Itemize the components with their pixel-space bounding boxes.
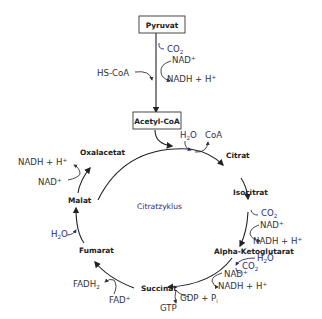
entry-co2-label: CO2 xyxy=(167,44,183,55)
gdp-label: GDP + Pi xyxy=(180,293,218,304)
acetylcoa-label: Acetyl-CoA xyxy=(134,117,180,126)
fad-label: FAD+ xyxy=(109,295,131,305)
metabolite-oxalacetat: Oxalacetat xyxy=(80,148,125,157)
entry-co2-release-arrow xyxy=(159,43,164,49)
metabolite-citrat: Citrat xyxy=(226,151,250,160)
acetylcoa-box: Acetyl-CoA xyxy=(133,112,181,129)
metabolite-succinat: Succinat xyxy=(141,284,177,293)
pyruvat-label: Pyruvat xyxy=(146,21,179,30)
acetylcoa-to-cycle-arrow xyxy=(155,130,172,146)
iso-nadh-label: NADH + H+ xyxy=(253,236,303,246)
citric-acid-cycle-diagram: Pyruvat CO2 NAD+ NADH + H+ HS-CoA Acetyl… xyxy=(0,0,322,319)
cycle-isocitrat-to-akg xyxy=(240,212,248,246)
entry-nadh-label: NADH + H+ xyxy=(167,74,217,84)
fum-h2o-label: H2O xyxy=(51,229,68,240)
metabolite-isocitrat: Isocitrat xyxy=(233,188,268,197)
metabolite-malat: Malat xyxy=(68,196,92,205)
entry-nad-label: NAD+ xyxy=(172,55,196,65)
metabolite-fumarat: Fumarat xyxy=(79,246,114,255)
pyruvat-box: Pyruvat xyxy=(139,16,185,33)
metabolite-alpha-ketoglutarat: Alpha-Ketoglutarat xyxy=(214,247,294,256)
akg-nadh-label: NADH + H+ xyxy=(218,281,268,291)
fum-h2o-arrow xyxy=(67,230,76,235)
citrat-coa-label: CoA xyxy=(205,130,222,140)
cycle-title: Citratzyklus xyxy=(137,202,182,211)
iso-nad-label: NAD+ xyxy=(260,220,284,230)
cycle-fumarat-to-malat xyxy=(76,208,84,243)
mal-nadh-label: NADH + H+ xyxy=(18,157,68,167)
fad-arrow xyxy=(105,279,116,294)
akg-nad-label: NAD+ xyxy=(224,269,248,279)
mal-nad-arrow xyxy=(68,165,80,180)
iso-co2-label: CO2 xyxy=(261,208,277,219)
cycle-succinat-to-fumarat xyxy=(95,262,134,288)
entry-hscoa-arrow xyxy=(135,72,152,80)
mal-nad-label: NAD+ xyxy=(38,177,62,187)
iso-co2-arrow xyxy=(251,210,258,215)
gtp-label: GTP xyxy=(160,303,177,313)
fadh2-label: FADH2 xyxy=(73,279,100,290)
diagram-canvas: Pyruvat CO2 NAD+ NADH + H+ HS-CoA Acetyl… xyxy=(0,0,322,319)
hscoa-label: HS-CoA xyxy=(97,68,129,78)
citrat-h2o-label: H2O xyxy=(180,130,197,141)
